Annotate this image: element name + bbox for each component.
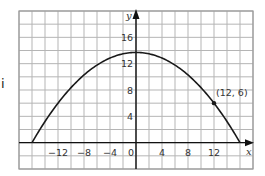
y-tick-label: 4 bbox=[127, 111, 133, 122]
x-tick-label: 12 bbox=[208, 147, 220, 158]
point-marker bbox=[212, 101, 216, 105]
x-axis-label: x bbox=[246, 146, 252, 157]
parabola-chart: xy −12−8−404812481216 (12, 6) bbox=[0, 0, 265, 176]
x-tick-label: 0 bbox=[128, 147, 134, 158]
y-tick-label: 16 bbox=[121, 32, 133, 43]
x-tick-label: −8 bbox=[77, 147, 91, 158]
annotations: (12, 6) bbox=[212, 87, 248, 105]
y-tick-label: 8 bbox=[127, 85, 133, 96]
x-tick-label: 4 bbox=[159, 147, 165, 158]
y-tick-label: 12 bbox=[121, 58, 133, 69]
y-axis-label: y bbox=[125, 10, 132, 21]
point-label: (12, 6) bbox=[216, 87, 248, 98]
x-tick-label: −12 bbox=[48, 147, 68, 158]
x-tick-label: −4 bbox=[103, 147, 117, 158]
x-tick-label: 8 bbox=[185, 147, 191, 158]
